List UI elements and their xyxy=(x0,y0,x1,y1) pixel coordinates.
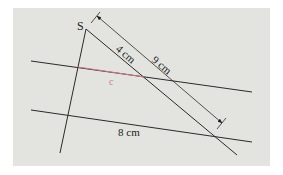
left-ray xyxy=(60,29,86,153)
point-s-label: S xyxy=(77,19,84,33)
label-9cm: 9 cm xyxy=(150,53,175,76)
lower-parallel-line xyxy=(31,110,252,142)
segment-c-label: c xyxy=(109,76,114,87)
label-8cm: 8 cm xyxy=(118,126,140,138)
geometry-figure: S 4 cm 9 cm 8 cm c xyxy=(0,0,283,175)
